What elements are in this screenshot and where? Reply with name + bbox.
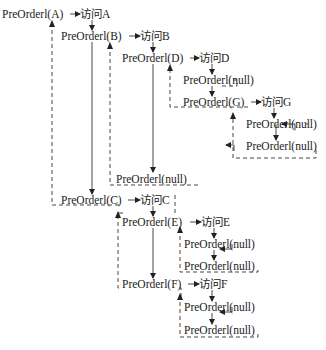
call-node-null-f-right: PreOrderl(null) bbox=[184, 324, 255, 336]
call-node-null-b-right: PreOrderl(null) bbox=[116, 173, 187, 185]
call-node-B: PreOrderl(B) bbox=[61, 30, 122, 42]
visit-node-B: 访问B bbox=[140, 30, 170, 42]
visit-node-C: 访问C bbox=[140, 194, 170, 206]
call-node-G: PreOrderl(G) bbox=[183, 96, 244, 108]
call-node-null-g-left: PreOrderl(null) bbox=[246, 118, 317, 130]
call-node-null-e-left: PreOrderl(null) bbox=[184, 238, 255, 250]
visit-node-E: 访问E bbox=[201, 216, 230, 228]
call-node-F: PreOrderl(F) bbox=[122, 278, 181, 290]
call-node-null-e-right: PreOrderl(null) bbox=[184, 260, 255, 272]
call-node-C: PreOrderl(C) bbox=[61, 194, 122, 206]
visit-node-F: 访问F bbox=[199, 278, 227, 290]
visit-node-G: 访问G bbox=[261, 96, 291, 108]
call-node-E: PreOrderl(E) bbox=[122, 216, 182, 228]
call-node-null-f-left: PreOrderl(null) bbox=[184, 301, 255, 313]
visit-node-D: 访问D bbox=[199, 52, 229, 64]
call-node-D: PreOrderl(D) bbox=[122, 52, 183, 64]
call-node-null-d-left: PreOrderl(null) bbox=[183, 74, 254, 86]
preorder-trace-diagram: PreOrderl(A) 访问A PreOrderl(B) 访问B PreOrd… bbox=[0, 0, 326, 350]
call-node-A: PreOrderl(A) bbox=[2, 8, 63, 20]
call-node-null-g-right: PreOrderl(null) bbox=[246, 140, 317, 152]
visit-node-A: 访问A bbox=[80, 8, 110, 20]
